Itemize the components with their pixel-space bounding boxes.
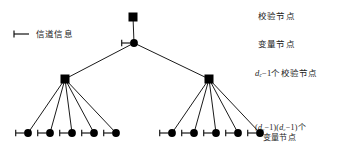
check-node-square-icon xyxy=(129,13,138,22)
annotation-leaf-count: (dv−1)(dc−1)个 变量节点 xyxy=(255,123,306,143)
leaf-b-close: −1)个 xyxy=(286,123,306,132)
graph-edge xyxy=(209,79,238,133)
graph-edge xyxy=(65,79,72,133)
annotation-check-node: 校验节点 xyxy=(258,11,295,22)
variable-node-circle-icon xyxy=(130,39,138,47)
variable-node-circle-icon xyxy=(90,129,98,137)
graph-edge xyxy=(134,43,209,79)
variable-node-circle-icon xyxy=(24,129,32,137)
annotation-variable-node: 变量节点 xyxy=(258,39,295,50)
leaf-count-line2: 变量节点 xyxy=(255,133,306,143)
variable-node-circle-icon xyxy=(68,129,76,137)
leaf-b-sub: c xyxy=(283,127,285,132)
variable-node-circle-icon xyxy=(112,129,120,137)
graph-edge xyxy=(172,79,209,133)
check-node-square-icon xyxy=(61,75,70,84)
graph-edge xyxy=(209,79,216,133)
graph-edge xyxy=(209,79,260,133)
leaf-a-close: −1) xyxy=(264,123,276,132)
legend-label: 信道信息 xyxy=(36,27,73,39)
dc-sub: c xyxy=(259,72,262,78)
variable-node-circle-icon xyxy=(212,129,220,137)
check-node-square-icon xyxy=(205,75,214,84)
half-edge-layer xyxy=(16,40,257,136)
variable-node-circle-icon xyxy=(190,129,198,137)
graph-edge xyxy=(50,79,65,133)
figure-canvas: 信道信息 校验节点 变量节点 dc−1个校验节点 (dv−1)(dc−1)个 变… xyxy=(0,0,337,156)
graph-edge xyxy=(65,79,94,133)
graph-edge xyxy=(65,79,116,133)
annotation-dc-minus-one-check: dc−1个校验节点 xyxy=(255,68,317,79)
variable-node-circle-icon xyxy=(46,129,54,137)
graph-edge xyxy=(65,43,134,79)
variable-node-circle-icon xyxy=(234,129,242,137)
leaf-count-line1: (dv−1)(dc−1)个 xyxy=(255,123,306,132)
graph-edge xyxy=(28,79,65,133)
dc-suffix: −1个校验节点 xyxy=(262,68,317,78)
graph-edge xyxy=(194,79,209,133)
variable-node-circle-icon xyxy=(168,129,176,137)
legend-half-edge-icon xyxy=(12,28,34,40)
